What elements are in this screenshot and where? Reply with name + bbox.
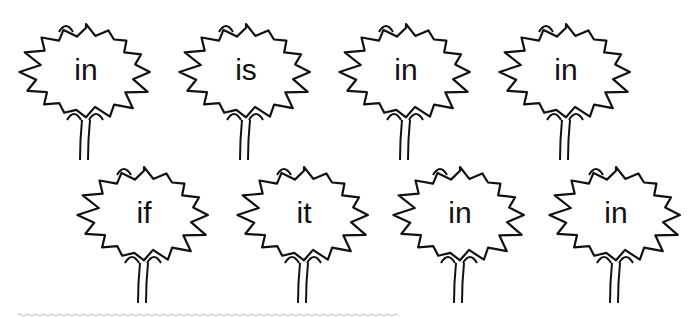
flower-stem (408, 120, 410, 160)
flower-word: in (390, 195, 530, 231)
flower: if (74, 155, 214, 305)
flower-word: it (234, 195, 374, 231)
flower: is (176, 12, 316, 162)
flower-petal (125, 257, 139, 263)
flower: in (16, 12, 156, 162)
flower-word: in (496, 52, 636, 88)
flower-petal (307, 257, 321, 263)
flower: it (234, 155, 374, 305)
flower-stem (568, 120, 570, 160)
flower-stem (618, 263, 620, 303)
flower-petal (67, 114, 81, 120)
flower-stem (400, 120, 402, 160)
flower-word: is (176, 52, 316, 88)
flower: in (390, 155, 530, 305)
flower-stem (306, 263, 308, 303)
flower-stem (146, 263, 148, 303)
flower-stem (454, 263, 456, 303)
flower-petal (569, 114, 583, 120)
flower-petal (619, 257, 633, 263)
flower: in (336, 12, 476, 162)
wavy-divider (18, 313, 398, 317)
flower-word: in (546, 195, 686, 231)
flower-petal (463, 257, 477, 263)
flower-petal (227, 114, 241, 120)
flower-stem (240, 120, 242, 160)
flower-stem (80, 120, 82, 160)
flower-petal (89, 114, 103, 120)
flower-stem (298, 263, 300, 303)
wavy-line (18, 314, 398, 316)
flower-petal (147, 257, 161, 263)
flower-stem (248, 120, 250, 160)
flower-stem (610, 263, 612, 303)
flower-word: in (16, 52, 156, 88)
flower-stem (88, 120, 90, 160)
flower-stem (462, 263, 464, 303)
flower-word: in (336, 52, 476, 88)
flower-petal (285, 257, 299, 263)
flower-petal (597, 257, 611, 263)
flower-stem (560, 120, 562, 160)
flower-petal (547, 114, 561, 120)
flower-petal (409, 114, 423, 120)
flower-stem (138, 263, 140, 303)
flower-petal (441, 257, 455, 263)
flower-petal (387, 114, 401, 120)
flower: in (496, 12, 636, 162)
flower-word: if (74, 195, 214, 231)
flower-petal (249, 114, 263, 120)
flower: in (546, 155, 686, 305)
